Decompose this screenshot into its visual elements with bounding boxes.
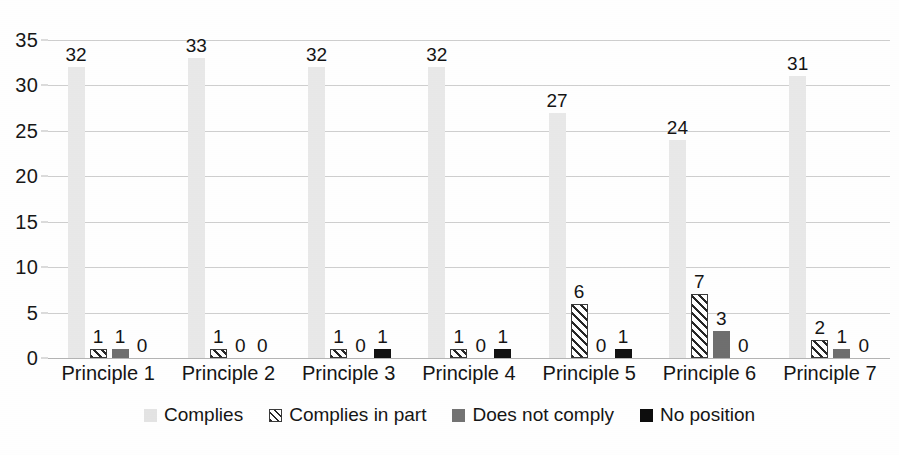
bar-group: 32101: [289, 40, 409, 358]
bar-group-bars: 32101: [409, 40, 529, 358]
bar-group: 31210: [770, 40, 890, 358]
bar-chart: 05101520253035 3211033100321013210127601…: [0, 0, 899, 455]
y-tick-label-30: 30: [15, 74, 38, 97]
legend-label: Complies in part: [289, 404, 426, 426]
y-tick-label-5: 5: [27, 301, 38, 324]
bar[interactable]: [450, 349, 467, 358]
x-tick-label: Principle 4: [409, 362, 529, 388]
y-tick-mark-0: [41, 358, 48, 359]
bar-slot: 6: [568, 40, 590, 358]
bar[interactable]: [330, 349, 347, 358]
bar[interactable]: [90, 349, 107, 358]
y-tick-mark-25: [41, 130, 48, 131]
bar-value-label: 1: [498, 327, 509, 346]
bar-group-bars: 24730: [649, 40, 769, 358]
legend-swatch-icon: [452, 409, 465, 422]
bar[interactable]: [789, 76, 806, 358]
bar[interactable]: [549, 113, 566, 358]
bar-group-bars: 27601: [529, 40, 649, 358]
bar-slot: 0: [590, 40, 612, 358]
bar[interactable]: [188, 58, 205, 358]
bar[interactable]: [374, 349, 391, 358]
legend-label: Does not comply: [472, 404, 614, 426]
bar[interactable]: [691, 294, 708, 358]
bar[interactable]: [210, 349, 227, 358]
bar-value-label: 1: [333, 327, 344, 346]
legend-label: No position: [660, 404, 755, 426]
bar-slot: 33: [185, 40, 207, 358]
bar-slot: 0: [229, 40, 251, 358]
y-tick-mark-10: [41, 267, 48, 268]
bar-group-bars: 32101: [289, 40, 409, 358]
bar-value-label: 1: [377, 327, 388, 346]
bar-slot: 1: [328, 40, 350, 358]
bar-value-label: 32: [306, 45, 327, 64]
x-tick-label: Principle 5: [529, 362, 649, 388]
y-tick-label-35: 35: [15, 29, 38, 52]
bar-slot: 3: [710, 40, 732, 358]
legend-item[interactable]: Complies in part: [269, 404, 426, 426]
bar[interactable]: [833, 349, 850, 358]
bar[interactable]: [669, 140, 686, 358]
y-tick-mark-15: [41, 221, 48, 222]
bar-value-label: 33: [186, 36, 207, 55]
bar-group-bars: 31210: [770, 40, 890, 358]
bar-value-label: 31: [787, 54, 808, 73]
bar-value-label: 1: [115, 327, 126, 346]
y-tick-mark-5: [41, 312, 48, 313]
bar-slot: 1: [372, 40, 394, 358]
bar[interactable]: [68, 67, 85, 358]
bar-group: 32101: [409, 40, 529, 358]
bar[interactable]: [112, 349, 129, 358]
bar-value-label: 0: [257, 336, 268, 355]
bar-slot: 1: [207, 40, 229, 358]
bar-group-bars: 33100: [168, 40, 288, 358]
bar-slot: 31: [787, 40, 809, 358]
bar[interactable]: [615, 349, 632, 358]
legend-item[interactable]: Does not comply: [452, 404, 614, 426]
bar-value-label: 1: [618, 327, 629, 346]
bar[interactable]: [308, 67, 325, 358]
bar-value-label: 7: [694, 272, 705, 291]
bar-slot: 1: [109, 40, 131, 358]
legend-item[interactable]: No position: [640, 404, 755, 426]
bar-value-label: 2: [814, 318, 825, 337]
x-tick-label: Principle 7: [770, 362, 890, 388]
legend-swatch-icon: [144, 409, 157, 422]
bar-slot: 0: [732, 40, 754, 358]
y-tick-label-15: 15: [15, 210, 38, 233]
bar-value-label: 0: [476, 336, 487, 355]
bar-value-label: 0: [355, 336, 366, 355]
bar-slot: 0: [251, 40, 273, 358]
y-tick-label-25: 25: [15, 119, 38, 142]
bar-slot: 0: [131, 40, 153, 358]
bar-value-label: 0: [738, 336, 749, 355]
bar-group: 27601: [529, 40, 649, 358]
y-axis: 05101520253035: [0, 40, 42, 358]
legend-item[interactable]: Complies: [144, 404, 243, 426]
bar[interactable]: [494, 349, 511, 358]
bar-slot: 1: [831, 40, 853, 358]
y-tick-mark-35: [41, 40, 48, 41]
bar-slot: 0: [853, 40, 875, 358]
bar[interactable]: [428, 67, 445, 358]
x-tick-label: Principle 6: [649, 362, 769, 388]
bar-slot: 0: [470, 40, 492, 358]
bar-slot: 7: [688, 40, 710, 358]
bar-value-label: 0: [137, 336, 148, 355]
bar[interactable]: [571, 304, 588, 359]
bar-slot: 24: [666, 40, 688, 358]
bar-value-label: 1: [454, 327, 465, 346]
bar-value-label: 6: [574, 282, 585, 301]
bar-slot: 0: [350, 40, 372, 358]
bar-group-bars: 32110: [48, 40, 168, 358]
bar-slot: 1: [612, 40, 634, 358]
chart-legend: CompliesComplies in partDoes not complyN…: [0, 404, 899, 426]
legend-label: Complies: [164, 404, 243, 426]
gridline-0: [48, 358, 890, 359]
bar-slot: 27: [546, 40, 568, 358]
bar[interactable]: [811, 340, 828, 358]
y-tick-label-0: 0: [27, 347, 38, 370]
bar-groups: 32110331003210132101276012473031210: [48, 40, 890, 358]
bar[interactable]: [713, 331, 730, 358]
